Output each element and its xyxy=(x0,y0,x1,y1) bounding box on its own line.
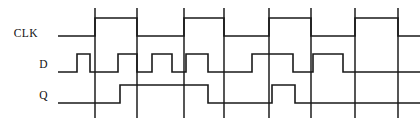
timing-diagram-canvas: CLKDQ xyxy=(0,0,420,126)
waveform-clk xyxy=(58,18,420,36)
signal-labels: CLKDQ xyxy=(14,27,48,101)
d-label: D xyxy=(39,58,48,70)
q-label: Q xyxy=(39,89,48,101)
clk-label: CLK xyxy=(14,27,38,39)
timing-diagram: CLKDQ xyxy=(0,0,420,126)
clock-gridlines xyxy=(95,8,398,118)
waveform-d xyxy=(58,54,420,72)
waveform-q xyxy=(58,85,420,103)
waveform-traces xyxy=(58,18,420,103)
